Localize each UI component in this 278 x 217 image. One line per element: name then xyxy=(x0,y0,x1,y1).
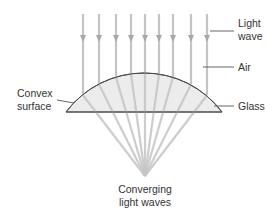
arrow-down-icon xyxy=(128,35,134,42)
arrow-down-icon xyxy=(156,35,162,42)
label-glass-text: Glass xyxy=(238,100,265,113)
label-converging-line2: light waves xyxy=(118,196,172,209)
label-air-text: Air xyxy=(238,61,251,74)
label-light-wave-line2: wave xyxy=(238,30,263,43)
leader-convex-surface xyxy=(57,100,74,103)
arrow-down-icon xyxy=(188,35,194,42)
arrow-down-icon xyxy=(170,35,176,42)
label-convex-surface-line2: surface xyxy=(17,100,53,113)
label-glass: Glass xyxy=(238,100,265,113)
label-convex-surface-line1: Convex xyxy=(17,87,53,100)
converging-light-rays xyxy=(66,73,222,176)
label-light-wave-line1: Light xyxy=(238,17,263,30)
arrow-down-icon xyxy=(80,35,86,42)
label-converging-line1: Converging xyxy=(118,183,172,196)
label-convex-surface: Convex surface xyxy=(17,87,53,113)
arrow-down-icon xyxy=(142,35,148,42)
label-light-wave: Light wave xyxy=(238,17,263,43)
label-converging-light-waves: Converging light waves xyxy=(118,183,172,209)
arrow-down-icon xyxy=(96,35,102,42)
arrow-down-icon xyxy=(113,35,119,42)
arrow-down-icon xyxy=(204,35,210,42)
label-air: Air xyxy=(238,61,251,74)
